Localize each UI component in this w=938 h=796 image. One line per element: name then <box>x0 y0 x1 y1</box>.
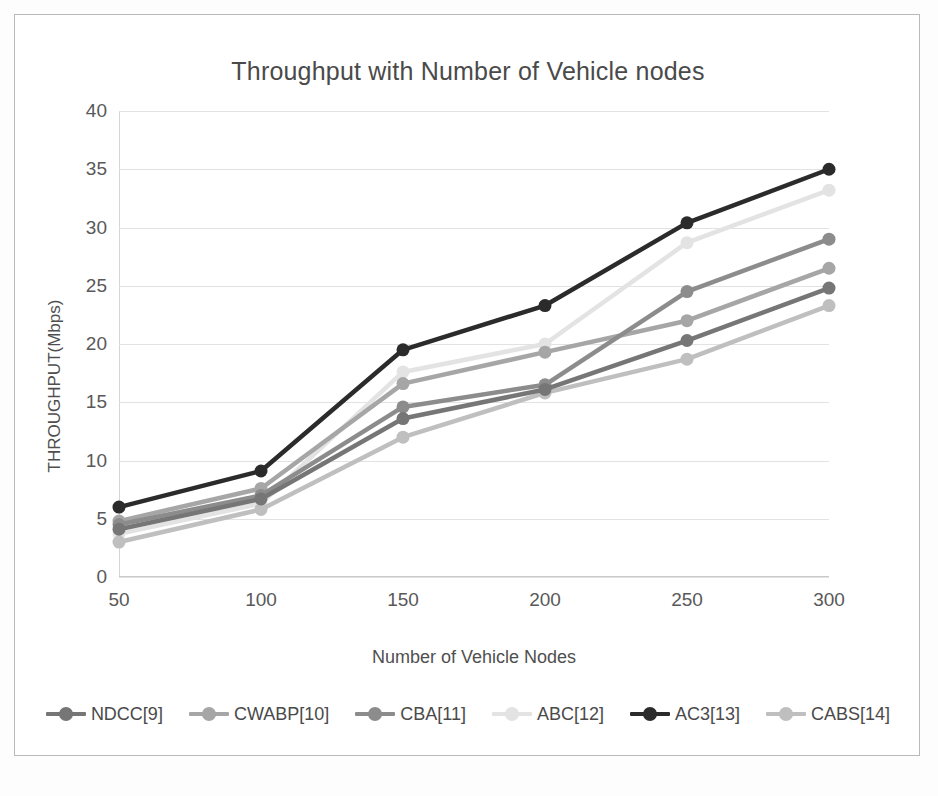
legend-marker-icon <box>492 707 532 721</box>
data-point <box>113 523 126 536</box>
data-point <box>539 346 552 359</box>
data-point <box>539 299 552 312</box>
y-tick-label: 0 <box>96 566 107 588</box>
data-point <box>397 377 410 390</box>
gridline <box>119 577 829 578</box>
data-point <box>681 236 694 249</box>
y-tick-label: 5 <box>96 508 107 530</box>
x-tick-label: 50 <box>108 589 129 611</box>
x-tick-label: 100 <box>245 589 277 611</box>
data-point <box>681 285 694 298</box>
legend-label: CABS[14] <box>811 705 890 723</box>
data-point <box>397 431 410 444</box>
data-point <box>823 233 836 246</box>
series-ac313 <box>113 163 836 514</box>
y-axis-title: THROUGHPUT(Mbps) <box>45 300 65 473</box>
data-point <box>681 216 694 229</box>
series-line <box>119 169 829 507</box>
series-line <box>119 190 829 534</box>
legend-marker-icon <box>189 707 229 721</box>
series-cba11 <box>113 233 836 531</box>
data-point <box>397 400 410 413</box>
legend-label: ABC[12] <box>537 705 604 723</box>
legend-marker-icon <box>630 707 670 721</box>
y-tick-label: 15 <box>86 391 107 413</box>
plot-wrapper: THROUGHPUT(Mbps) 0510152025303540 501001… <box>15 15 921 757</box>
data-point <box>823 282 836 295</box>
x-tick-label: 300 <box>813 589 845 611</box>
data-point <box>255 492 268 505</box>
data-point <box>397 365 410 378</box>
y-tick-label: 25 <box>86 275 107 297</box>
data-point <box>823 299 836 312</box>
legend-item-abc12[interactable]: ABC[12] <box>492 705 604 723</box>
y-tick-label: 35 <box>86 158 107 180</box>
data-point <box>823 163 836 176</box>
y-tick-label: 40 <box>86 100 107 122</box>
legend-marker-icon <box>46 707 86 721</box>
data-point <box>823 184 836 197</box>
x-tick-label: 250 <box>671 589 703 611</box>
y-tick-label: 10 <box>86 450 107 472</box>
legend-marker-icon <box>766 707 806 721</box>
chart-legend: NDCC[9]CWABP[10]CBA[11]ABC[12]AC3[13]CAB… <box>15 705 921 723</box>
data-point <box>681 314 694 327</box>
data-point <box>823 262 836 275</box>
legend-marker-icon <box>355 707 395 721</box>
data-point <box>255 464 268 477</box>
chart-screenshot: Throughput with Number of Vehicle nodes … <box>0 0 938 796</box>
x-tick-label: 150 <box>387 589 419 611</box>
y-tick-label: 30 <box>86 217 107 239</box>
figure-frame: Throughput with Number of Vehicle nodes … <box>14 14 920 756</box>
x-axis-title: Number of Vehicle Nodes <box>119 647 829 668</box>
series-line <box>119 288 829 529</box>
data-point <box>113 536 126 549</box>
legend-item-cba11[interactable]: CBA[11] <box>355 705 466 723</box>
data-point <box>539 383 552 396</box>
legend-item-ndcc9[interactable]: NDCC[9] <box>46 705 163 723</box>
data-point <box>681 353 694 366</box>
legend-label: CWABP[10] <box>234 705 329 723</box>
legend-item-ac313[interactable]: AC3[13] <box>630 705 740 723</box>
data-point <box>397 412 410 425</box>
legend-label: AC3[13] <box>675 705 740 723</box>
data-point <box>113 501 126 514</box>
legend-label: NDCC[9] <box>91 705 163 723</box>
legend-label: CBA[11] <box>400 705 466 723</box>
series-plot <box>119 111 829 577</box>
data-point <box>681 334 694 347</box>
data-point <box>397 343 410 356</box>
y-tick-label: 20 <box>86 333 107 355</box>
x-tick-label: 200 <box>529 589 561 611</box>
legend-item-cabs14[interactable]: CABS[14] <box>766 705 890 723</box>
series-abc12 <box>113 184 836 541</box>
plot-area: 0510152025303540 50100150200250300 <box>119 111 829 577</box>
legend-item-cwabp10[interactable]: CWABP[10] <box>189 705 329 723</box>
